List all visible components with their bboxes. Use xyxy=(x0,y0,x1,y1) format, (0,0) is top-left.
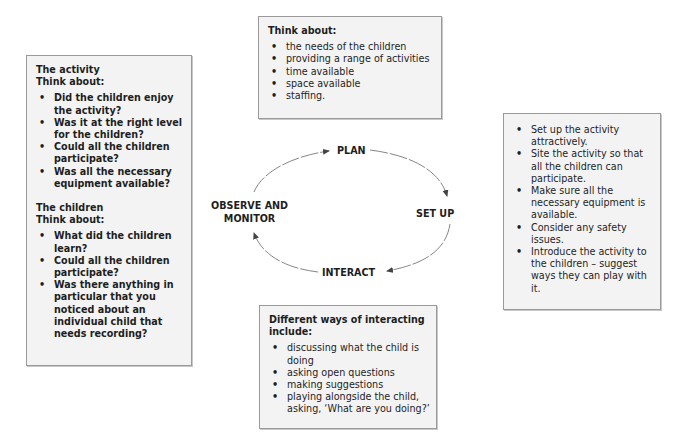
activity-section: The activity Think about: Did the childr… xyxy=(36,64,185,190)
list-item: Make sure all the necessary equipment is… xyxy=(513,185,654,222)
activity-list: Did the children enjoy the activity? Was… xyxy=(36,92,185,190)
interact-notes-heading: Different ways of interacting include: xyxy=(269,314,430,338)
stage-observe-and-monitor: OBSERVE AND MONITOR xyxy=(211,199,288,225)
list-item: the needs of the children xyxy=(268,41,435,53)
list-item: time available xyxy=(268,66,435,78)
arrow-interact-to-observe xyxy=(254,233,318,272)
stage-set-up: SET UP xyxy=(416,207,454,220)
plan-notes-list: the needs of the children providing a ra… xyxy=(268,41,435,102)
arrow-observe-to-plan xyxy=(254,151,329,192)
children-heading: Think about: xyxy=(36,214,185,226)
stage-plan: PLAN xyxy=(337,144,366,157)
stage-observe-line2: MONITOR xyxy=(211,212,288,225)
list-item: Could all the children participate? xyxy=(36,141,185,165)
list-item: providing a range of activities xyxy=(268,53,435,65)
list-item: Was there anything in particular that yo… xyxy=(36,279,185,340)
stage-interact: INTERACT xyxy=(322,266,375,279)
list-item: Set up the activity attractively. xyxy=(513,124,654,148)
interact-notes-list: discussing what the child is doing askin… xyxy=(269,342,430,415)
list-item: What did the children learn? xyxy=(36,230,185,254)
list-item: Did the children enjoy the activity? xyxy=(36,92,185,116)
list-item: playing alongside the child, asking, ‘Wh… xyxy=(269,391,430,415)
list-item: space available xyxy=(268,78,435,90)
plan-notes-box: Think about: the needs of the children p… xyxy=(258,16,442,119)
list-item: Could all the children participate? xyxy=(36,255,185,279)
setup-notes-list: Set up the activity attractively. Site t… xyxy=(513,124,654,295)
plan-notes-heading: Think about: xyxy=(268,25,435,37)
list-item: Introduce the activity to the children –… xyxy=(513,246,654,295)
activity-title: The activity xyxy=(36,64,185,76)
children-title: The children xyxy=(36,202,185,214)
arrow-plan-to-setup xyxy=(370,150,447,196)
activity-heading: Think about: xyxy=(36,76,185,88)
list-item: Was all the necessary equipment availabl… xyxy=(36,166,185,190)
list-item: Was it at the right level for the childr… xyxy=(36,117,185,141)
setup-notes-box: Set up the activity attractively. Site t… xyxy=(503,113,661,310)
list-item: Site the activity so that all the childr… xyxy=(513,148,654,185)
arrow-setup-to-interact xyxy=(387,224,450,271)
children-section: The children Think about: What did the c… xyxy=(36,202,185,340)
stage-observe-line1: OBSERVE AND xyxy=(211,199,288,212)
list-item: Consider any safety issues. xyxy=(513,222,654,246)
list-item: staffing. xyxy=(268,90,435,102)
children-list: What did the children learn? Could all t… xyxy=(36,230,185,340)
list-item: making suggestions xyxy=(269,379,430,391)
list-item: discussing what the child is doing xyxy=(269,342,430,366)
interact-notes-box: Different ways of interacting include: d… xyxy=(259,305,437,429)
observe-notes-box: The activity Think about: Did the childr… xyxy=(26,55,192,366)
list-item: asking open questions xyxy=(269,367,430,379)
